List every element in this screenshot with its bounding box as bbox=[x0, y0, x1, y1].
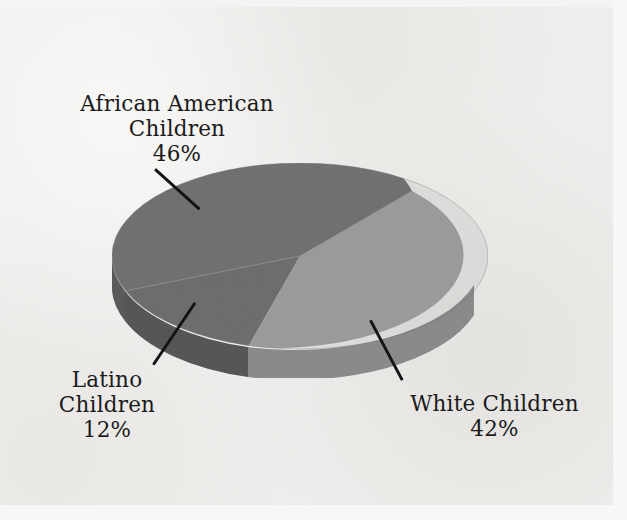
slice-label-latino-line2: Children bbox=[59, 392, 155, 417]
slice-label-white-line1: White Children bbox=[410, 391, 578, 416]
slice-label-african-american: African American Children 46% bbox=[68, 92, 286, 167]
slice-value-latino: 12% bbox=[22, 418, 192, 443]
slice-label-african-american-line1: African American bbox=[80, 91, 274, 116]
pie-chart-svg bbox=[112, 163, 488, 378]
scanned-page: African American Children 46% Latino Chi… bbox=[0, 0, 627, 520]
scan-margin-bottom bbox=[0, 505, 627, 520]
pie-grain-overlay bbox=[112, 163, 488, 349]
slice-label-latino: Latino Children 12% bbox=[22, 368, 192, 443]
slice-value-african-american: 46% bbox=[68, 142, 286, 167]
pie-chart-3d bbox=[112, 163, 488, 378]
slice-label-african-american-line2: Children bbox=[129, 116, 225, 141]
scan-margin-top bbox=[0, 0, 627, 7]
slice-value-white: 42% bbox=[392, 417, 597, 442]
slice-label-white: White Children 42% bbox=[392, 392, 597, 442]
slice-label-latino-line1: Latino bbox=[72, 367, 143, 392]
scan-margin-right bbox=[613, 0, 627, 520]
